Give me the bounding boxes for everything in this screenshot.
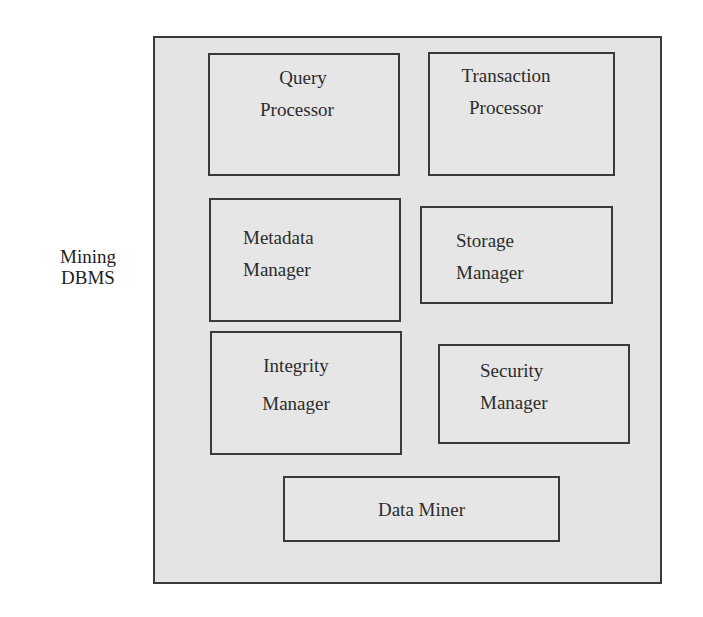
transaction-processor-box: Transaction Processor xyxy=(428,52,615,176)
metadata-manager-box: Metadata Manager xyxy=(209,198,401,322)
integrity-manager-line2: Manager xyxy=(251,388,341,420)
security-manager-line1: Security xyxy=(480,355,548,387)
metadata-manager-line2: Manager xyxy=(243,254,314,286)
transaction-processor-line1: Transaction xyxy=(446,60,566,92)
storage-manager-line1: Storage xyxy=(456,225,524,257)
transaction-processor-line2: Processor xyxy=(446,92,566,124)
mining-dbms-label: Mining DBMS xyxy=(50,246,126,288)
mining-dbms-label-line2: DBMS xyxy=(50,267,126,288)
query-processor-box: Query Processor xyxy=(208,53,400,176)
metadata-manager-line1: Metadata xyxy=(243,222,314,254)
security-manager-box: Security Manager xyxy=(438,344,630,444)
integrity-manager-box: Integrity Manager xyxy=(210,331,402,455)
storage-manager-box: Storage Manager xyxy=(420,206,613,304)
integrity-manager-line1: Integrity xyxy=(251,350,341,382)
query-processor-line2: Processor xyxy=(241,94,353,126)
mining-dbms-label-line1: Mining xyxy=(50,246,126,267)
query-processor-line1: Query xyxy=(253,62,353,94)
security-manager-line2: Manager xyxy=(480,387,548,419)
data-miner-box: Data Miner xyxy=(283,476,560,542)
storage-manager-line2: Manager xyxy=(456,257,524,289)
data-miner-label: Data Miner xyxy=(285,494,558,526)
